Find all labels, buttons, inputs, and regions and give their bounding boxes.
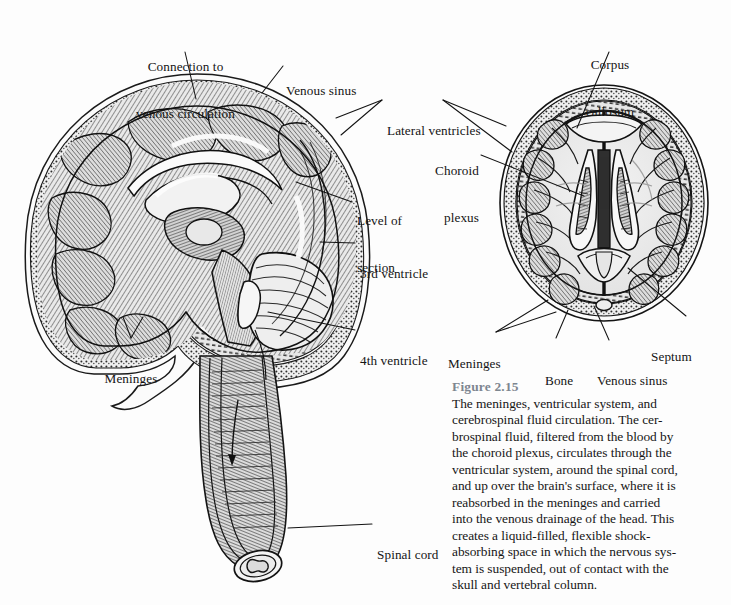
caption-line: absorbing space in which the nervous sys… bbox=[452, 544, 718, 560]
caption-line: The meninges, ventricular system, and bbox=[452, 396, 718, 412]
label-venous-sinus-left: Venous sinus bbox=[286, 52, 356, 130]
label-meninges-left: Meninges bbox=[83, 340, 179, 418]
label-4th-ventricle: 4th ventricle bbox=[360, 322, 428, 400]
figure-canvas: Connection to venous circulation Venous … bbox=[0, 0, 731, 605]
caption-line: creates a liquid-filled, flexible shock- bbox=[452, 528, 718, 544]
venous-sinus-axial bbox=[596, 300, 612, 311]
figure-caption-block: Figure 2.15 The meninges, ventricular sy… bbox=[452, 379, 718, 593]
label-choroid-plexus: Choroid plexus bbox=[411, 132, 479, 256]
label-corpus-callosum: Corpus callosum bbox=[577, 26, 643, 150]
caption-line: ventricular system, around the spinal co… bbox=[452, 462, 718, 478]
caption-line: and up over the brain's surface, where i… bbox=[452, 478, 718, 494]
spinal-cord-illustration bbox=[200, 356, 287, 586]
caption-line: reabsorbed in the meninges and carried bbox=[452, 495, 718, 511]
figure-caption-text: The meninges, ventricular system, and ce… bbox=[452, 396, 718, 593]
caption-line: tem is suspended, out of contact with th… bbox=[452, 561, 718, 577]
caption-line: the choroid plexus, circulates through t… bbox=[452, 445, 718, 461]
septum-pellucidum bbox=[598, 150, 610, 248]
caption-line: brospinal fluid, filtered from the blood… bbox=[452, 429, 718, 445]
label-connection-to-venous-circulation: Connection to venous circulation bbox=[93, 28, 278, 152]
figure-number: Figure 2.15 bbox=[452, 379, 718, 395]
caption-line: into the venous drainage of the head. Th… bbox=[452, 511, 718, 527]
label-spinal-cord: Spinal cord bbox=[377, 516, 439, 594]
caption-line: cerebrospinal fluid circulation. The cer… bbox=[452, 412, 718, 428]
caption-line: skull and vertebral column. bbox=[452, 577, 718, 593]
